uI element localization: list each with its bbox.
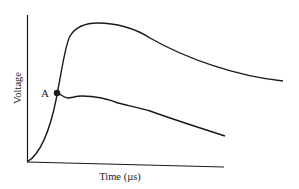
point-a-marker [54,90,60,96]
upper-curve [27,23,283,162]
x-axis [27,162,224,167]
x-axis-label: Time (µs) [99,171,141,183]
y-axis-label: Voltage [12,72,23,104]
voltage-time-diagram: A Voltage Time (µs) [0,0,299,189]
point-a-label: A [41,87,49,99]
lower-curve [57,93,225,136]
